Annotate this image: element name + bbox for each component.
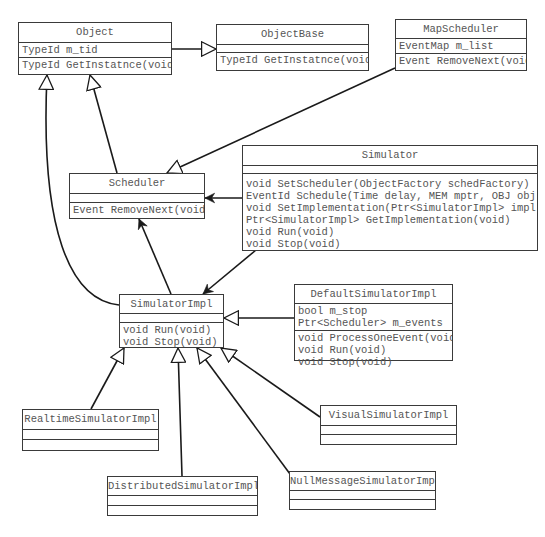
- class-name: Scheduler: [70, 174, 204, 194]
- method: Ptr<SimulatorImpl> GetImplementation(voi…: [246, 214, 534, 226]
- class-attributes: [108, 496, 257, 506]
- class-name: SimulatorImpl: [120, 295, 223, 314]
- method: EventId Schedule(Time delay, MEM mptr, O…: [246, 190, 534, 202]
- class-name: VisualSimulatorImpl: [321, 406, 456, 426]
- class-simulator[interactable]: Simulator void SetScheduler(ObjectFactor…: [242, 145, 538, 251]
- class-visualsimulatorimpl[interactable]: VisualSimulatorImpl: [320, 405, 457, 445]
- class-attributes: TypeId m_tid: [19, 43, 171, 58]
- method: void ProcessOneEvent(void): [298, 332, 449, 344]
- class-methods: [23, 440, 158, 449]
- class-attributes: [290, 491, 435, 500]
- edge-distributed-simulatorimpl: [178, 348, 182, 476]
- uml-diagram-canvas: Object TypeId m_tid TypeId GetInstatnce(…: [0, 0, 545, 537]
- class-methods: TypeId GetInstatnce(void): [19, 58, 171, 74]
- class-simulatorimpl[interactable]: SimulatorImpl void Run(void) void Stop(v…: [119, 294, 224, 348]
- class-methods: [321, 435, 456, 443]
- class-objectbase[interactable]: ObjectBase TypeId GetInstatnce(void): [216, 24, 369, 71]
- method: void Stop(void): [123, 336, 220, 348]
- class-name: MapScheduler: [396, 20, 526, 39]
- edge-scheduler-object: [90, 75, 117, 173]
- class-attributes: EventMap m_list: [396, 39, 526, 54]
- class-mapscheduler[interactable]: MapScheduler EventMap m_list Event Remov…: [395, 19, 527, 71]
- class-attributes: bool m_stop Ptr<Scheduler> m_events: [295, 304, 452, 331]
- method: TypeId GetInstatnce(void): [22, 59, 168, 71]
- method: void SetImplementation(Ptr<SimulatorImpl…: [246, 202, 534, 214]
- class-name: ObjectBase: [217, 25, 368, 45]
- method: void Stop(void): [246, 238, 534, 250]
- relationship-lines: [0, 0, 545, 537]
- class-methods: Event RemoveNext(void): [396, 54, 526, 70]
- class-scheduler[interactable]: Scheduler Event RemoveNext(void): [69, 173, 205, 219]
- attribute: bool m_stop: [298, 305, 449, 317]
- class-methods: [290, 500, 435, 508]
- method: void Run(void): [298, 344, 449, 356]
- class-methods: TypeId GetInstatnce(void): [217, 53, 368, 70]
- method: Event RemoveNext(void): [399, 55, 523, 67]
- method: Event RemoveNext(void): [73, 204, 201, 216]
- method: void Run(void): [123, 324, 220, 336]
- class-name: Object: [19, 23, 171, 43]
- edge-simulatorimpl-scheduler: [139, 219, 171, 294]
- method: void Run(void): [246, 226, 534, 238]
- edge-simulator-simulatorimpl: [203, 250, 256, 294]
- method: TypeId GetInstatnce(void): [220, 54, 365, 66]
- class-methods: void ProcessOneEvent(void) void Run(void…: [295, 331, 452, 369]
- class-realtimesimulatorimpl[interactable]: RealtimeSimulatorImpl: [22, 409, 159, 451]
- class-methods: Event RemoveNext(void): [70, 203, 204, 219]
- class-name: DefaultSimulatorImpl: [295, 285, 452, 304]
- edge-realtime-simulatorimpl: [91, 348, 124, 409]
- class-attributes: [321, 426, 456, 435]
- method: void SetScheduler(ObjectFactory schedFac…: [246, 178, 534, 190]
- class-name: RealtimeSimulatorImpl: [23, 410, 158, 430]
- class-attributes: [217, 45, 368, 53]
- class-name: DistributedSimulatorImpl: [108, 477, 257, 496]
- class-methods: [108, 506, 257, 514]
- class-attributes: [243, 166, 537, 174]
- class-distributedsimulatorimpl[interactable]: DistributedSimulatorImpl: [107, 476, 258, 516]
- class-defaultsimulatorimpl[interactable]: DefaultSimulatorImpl bool m_stop Ptr<Sch…: [294, 284, 453, 361]
- class-nullmessagesimulatorimpl[interactable]: NullMessageSimulatorImpl: [289, 471, 436, 510]
- class-attributes: [120, 314, 223, 323]
- class-name: NullMessageSimulatorImpl: [290, 472, 435, 491]
- class-attributes: [70, 194, 204, 203]
- attribute: EventMap m_list: [399, 40, 523, 52]
- class-name: Simulator: [243, 146, 537, 166]
- class-object[interactable]: Object TypeId m_tid TypeId GetInstatnce(…: [18, 22, 172, 75]
- attribute: Ptr<Scheduler> m_events: [298, 317, 449, 329]
- attribute: TypeId m_tid: [22, 44, 168, 56]
- class-methods: void Run(void) void Stop(void): [120, 323, 223, 349]
- method: void Stop(void): [298, 356, 449, 368]
- edge-nullmessage-simulatorimpl: [197, 348, 290, 474]
- class-attributes: [23, 430, 158, 440]
- class-methods: void SetScheduler(ObjectFactory schedFac…: [243, 174, 537, 254]
